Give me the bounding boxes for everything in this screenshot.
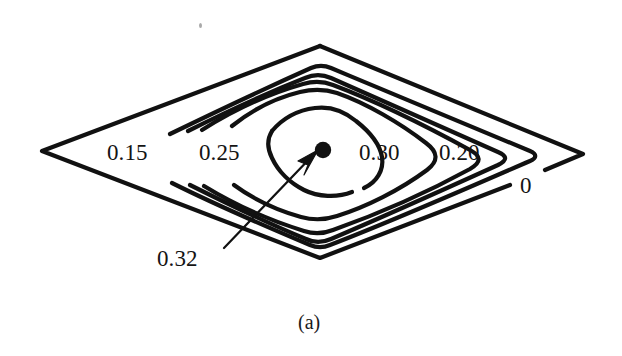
- contour-label-0-32: 0.32: [157, 247, 198, 270]
- peak-marker-dot: [315, 142, 331, 158]
- contour-label-0-20: 0.20: [439, 141, 480, 164]
- figure-caption: (a): [298, 311, 320, 334]
- contour-label-0-15: 0.15: [107, 141, 148, 164]
- contour-label-0-30: 0.30: [359, 141, 400, 164]
- contour-label-0: 0: [520, 174, 532, 197]
- contour-plot-figure: 0.15 0.25 0.30 0.20 0 0.32 (a): [0, 0, 622, 356]
- contour-label-0-25: 0.25: [199, 141, 240, 164]
